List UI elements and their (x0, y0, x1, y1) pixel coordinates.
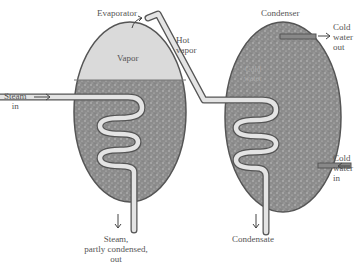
arrow-cold-water-out (318, 33, 330, 39)
evaporator-coil (0, 97, 142, 230)
steam-out-label: Steam, partly condensed, out (76, 234, 156, 264)
condenser-water-label: Cold water (244, 65, 262, 83)
cold-water-in-label: Cold water in (333, 153, 353, 183)
evaporator-title: Evaporator (97, 8, 137, 18)
arrow-steam-out (115, 214, 121, 228)
condensate-label: Condensate (232, 234, 274, 244)
cold-water-out-label: Cold water out (333, 22, 353, 52)
condenser-vessel (225, 22, 341, 212)
steam-in-label: Steam in (4, 91, 27, 111)
condenser-title: Condenser (261, 8, 300, 18)
arrow-condensate (253, 214, 259, 228)
vapor-label: Vapor (117, 53, 139, 63)
hot-vapor-label: Hot vapor (176, 35, 197, 55)
